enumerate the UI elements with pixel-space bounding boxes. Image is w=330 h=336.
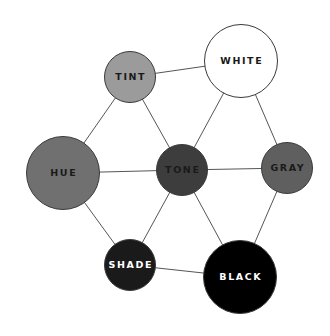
node-tint: TINT	[104, 51, 156, 103]
node-shade-label: SHADE	[107, 260, 153, 270]
node-gray: GRAY	[261, 142, 313, 194]
node-white-label: WHITE	[219, 56, 264, 66]
node-hue: HUE	[26, 136, 100, 210]
node-black-label: BLACK	[218, 272, 263, 282]
node-tone-label: TONE	[164, 165, 201, 175]
node-gray-label: GRAY	[269, 163, 305, 173]
node-tint-label: TINT	[114, 72, 146, 82]
node-hue-label: HUE	[49, 168, 78, 178]
node-black: BLACK	[203, 240, 277, 314]
node-white: WHITE	[204, 24, 278, 98]
color-relationship-diagram: TINT WHITE HUE TONE GRAY SHADE BLACK	[0, 0, 330, 336]
node-tone: TONE	[156, 144, 208, 196]
node-shade: SHADE	[104, 239, 156, 291]
